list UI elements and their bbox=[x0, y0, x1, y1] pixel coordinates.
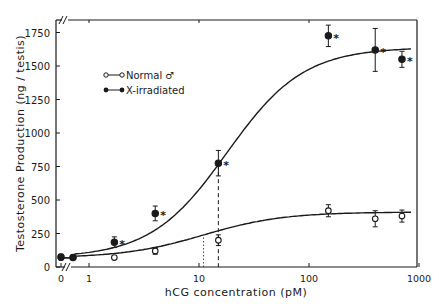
xirr-data-point bbox=[399, 56, 405, 62]
normal-data-point bbox=[372, 216, 378, 222]
xirr-data-point bbox=[58, 254, 64, 260]
legend-xirr-marker-icon bbox=[104, 88, 109, 93]
x-tick-label: 0 bbox=[58, 273, 64, 284]
significance-asterisk: * bbox=[160, 209, 166, 222]
legend-xirr-marker-icon bbox=[120, 88, 125, 93]
x-axis-label: hCG concentration (pM) bbox=[165, 286, 307, 299]
significance-asterisk: * bbox=[119, 238, 125, 251]
y-tick-label: 250 bbox=[31, 229, 50, 240]
normal-data-point bbox=[112, 255, 118, 261]
significance-asterisk: * bbox=[223, 159, 229, 172]
y-tick-label: 1250 bbox=[25, 95, 50, 106]
normal-data-point bbox=[152, 248, 158, 254]
normal-data-point bbox=[216, 237, 222, 243]
xirr-data-point bbox=[152, 210, 158, 216]
significance-asterisk: * bbox=[333, 32, 339, 45]
chart-svg: 0250500750100012501500175001101001000hCG… bbox=[0, 0, 439, 306]
xirr-data-point bbox=[215, 160, 221, 166]
normal-data-point bbox=[399, 213, 405, 219]
y-tick-label: 1000 bbox=[25, 128, 50, 139]
significance-asterisk: * bbox=[380, 46, 386, 59]
normal-data-point bbox=[326, 208, 332, 214]
x-tick-label: 10 bbox=[193, 273, 205, 284]
chart-container: 0250500750100012501500175001101001000hCG… bbox=[0, 0, 439, 306]
xirr-data-point bbox=[111, 239, 117, 245]
axis-break-mark bbox=[63, 16, 67, 24]
legend-xirr-label: X-irradiated bbox=[126, 85, 185, 96]
xirr-data-point bbox=[325, 33, 331, 39]
x-tick-label: 1 bbox=[86, 273, 92, 284]
y-axis-label: Testosterone Production (ng / testis) bbox=[14, 35, 27, 253]
legend-normal-marker-icon bbox=[120, 73, 124, 77]
y-tick-label: 1500 bbox=[25, 61, 50, 72]
legend-normal-marker-icon bbox=[104, 73, 108, 77]
xirr-data-point bbox=[70, 254, 76, 260]
significance-asterisk: * bbox=[407, 55, 413, 68]
y-tick-label: 750 bbox=[31, 162, 50, 173]
legend-normal-label: Normal ♂ bbox=[126, 70, 174, 81]
xirr-data-point bbox=[372, 47, 378, 53]
y-tick-label: 500 bbox=[31, 195, 50, 206]
x-tick-label: 1000 bbox=[407, 273, 431, 284]
y-tick-label: 0 bbox=[44, 262, 50, 273]
normal-fit-curve bbox=[61, 212, 411, 258]
y-tick-label: 1750 bbox=[25, 28, 50, 39]
x-tick-label: 100 bbox=[300, 273, 318, 284]
axis-break-mark bbox=[66, 263, 70, 271]
